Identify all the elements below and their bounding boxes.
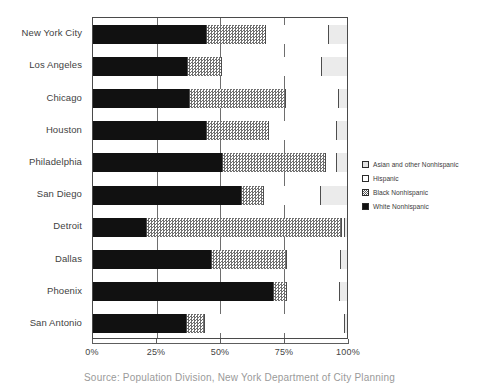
- y-axis-label-san-diego: San Diego: [37, 188, 82, 199]
- y-axis-label-los-angeles: Los Angeles: [29, 59, 82, 70]
- x-tick-label-0: 0%: [85, 347, 98, 357]
- y-axis-label-philadelphia: Philadelphia: [29, 156, 82, 167]
- bar-segment-black_nh: [190, 89, 287, 108]
- y-axis-label-dallas: Dallas: [55, 253, 82, 264]
- bar-segment-white_nh: [93, 282, 274, 301]
- bar-segment-white_nh: [93, 218, 147, 237]
- bar-segment-hispanic: [266, 25, 329, 44]
- bar-segment-black_nh: [223, 153, 327, 172]
- bar-segment-hispanic: [326, 153, 337, 172]
- figure-caption: Source: Population Division, New York De…: [84, 372, 395, 384]
- y-axis-label-san-antonio: San Antonio: [30, 317, 82, 328]
- x-tick-50: [220, 339, 221, 344]
- chart-legend: Asian and other NonhispanicHispanicBlack…: [362, 158, 480, 214]
- bar-segment-asian: [340, 282, 347, 301]
- bar-segment-asian: [345, 218, 347, 237]
- legend-label-asian: Asian and other Nonhispanic: [373, 161, 459, 168]
- y-axis-category-labels: New York CityLos AngelesChicagoHoustonPh…: [0, 17, 88, 339]
- bar-segment-asian: [329, 25, 347, 44]
- bar-segment-asian: [321, 186, 347, 205]
- bar-segment-asian: [322, 57, 347, 76]
- legend-item-black_nh[interactable]: Black Nonhispanic: [362, 186, 480, 198]
- bar-row: [93, 250, 347, 269]
- legend-item-hispanic[interactable]: Hispanic: [362, 172, 480, 184]
- bar-segment-white_nh: [93, 121, 207, 140]
- bar-segment-asian: [337, 121, 347, 140]
- bar-row: [93, 186, 347, 205]
- bar-segment-white_nh: [93, 153, 223, 172]
- plot-area: [92, 17, 348, 339]
- legend-label-white_nh: White Nonhispanic: [373, 203, 429, 210]
- bar-segment-white_nh: [93, 314, 187, 333]
- legend-label-hispanic: Hispanic: [373, 175, 399, 182]
- bar-segment-black_nh: [212, 250, 288, 269]
- bar-segment-hispanic: [222, 57, 323, 76]
- bar-row: [93, 121, 347, 140]
- y-axis-label-phoenix: Phoenix: [47, 285, 82, 296]
- bar-row: [93, 25, 347, 44]
- x-tick-75: [284, 339, 285, 344]
- bar-segment-black_nh: [207, 121, 270, 140]
- bar-segment-asian: [341, 250, 347, 269]
- y-axis-label-new-york-city: New York City: [22, 27, 82, 38]
- x-tick-label-100: 100%: [336, 347, 360, 357]
- bar-segment-black_nh: [207, 25, 267, 44]
- bar-segment-hispanic: [286, 89, 339, 108]
- bar-segment-black_nh: [147, 218, 342, 237]
- legend-label-black_nh: Black Nonhispanic: [373, 189, 428, 196]
- legend-item-asian[interactable]: Asian and other Nonhispanic: [362, 158, 480, 170]
- x-tick-25: [156, 339, 157, 344]
- bar-row: [93, 282, 347, 301]
- bar-segment-asian: [337, 153, 347, 172]
- bar-segment-black_nh: [242, 186, 264, 205]
- legend-item-white_nh[interactable]: White Nonhispanic: [362, 200, 480, 212]
- square-swatch-icon: [362, 175, 369, 182]
- bar-segment-white_nh: [93, 25, 207, 44]
- bar-series-container: [93, 18, 347, 338]
- square-swatch-icon: [362, 161, 369, 168]
- bar-segment-black_nh: [188, 57, 222, 76]
- bar-segment-hispanic: [205, 314, 345, 333]
- x-tick-label-75: 75%: [275, 347, 294, 357]
- bar-segment-hispanic: [287, 282, 340, 301]
- bar-segment-hispanic: [287, 250, 341, 269]
- bar-row: [93, 153, 347, 172]
- square-swatch-icon: [362, 203, 369, 210]
- bar-segment-white_nh: [93, 186, 242, 205]
- x-tick-label-25: 25%: [147, 347, 166, 357]
- stacked-bar-chart-figure: New York CityLos AngelesChicagoHoustonPh…: [0, 0, 482, 384]
- x-tick-100: [348, 339, 349, 344]
- x-tick-label-50: 50%: [211, 347, 230, 357]
- bar-row: [93, 314, 347, 333]
- y-axis-label-detroit: Detroit: [53, 220, 82, 231]
- bar-segment-asian: [339, 89, 347, 108]
- bar-segment-hispanic: [269, 121, 337, 140]
- bar-segment-hispanic: [264, 186, 321, 205]
- bar-segment-black_nh: [274, 282, 287, 301]
- y-axis-label-chicago: Chicago: [46, 92, 82, 103]
- bar-row: [93, 57, 347, 76]
- bar-segment-white_nh: [93, 250, 212, 269]
- bar-segment-white_nh: [93, 89, 190, 108]
- bar-segment-black_nh: [187, 314, 205, 333]
- bar-segment-asian: [345, 314, 347, 333]
- y-axis-label-houston: Houston: [46, 124, 82, 135]
- square-swatch-icon: [362, 189, 369, 196]
- bar-row: [93, 89, 347, 108]
- x-tick-0: [92, 339, 93, 344]
- bar-row: [93, 218, 347, 237]
- bar-segment-white_nh: [93, 57, 188, 76]
